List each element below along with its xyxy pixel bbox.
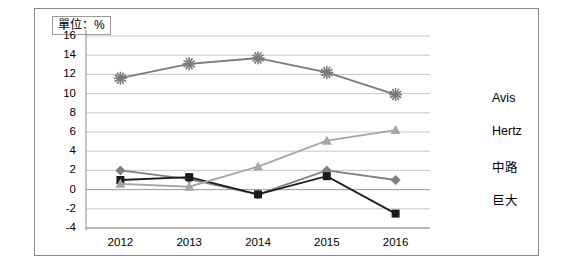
x-axis-tick: 2014 [235, 236, 281, 248]
y-axis-tick: 2 [52, 163, 76, 175]
chart-frame [34, 8, 539, 256]
legend-label: 中路 [492, 157, 518, 176]
legend-marker-diamond-icon [450, 92, 484, 93]
legend-marker-square-icon [450, 125, 484, 126]
y-axis-tick: 16 [52, 29, 76, 41]
y-axis-tick: -2 [52, 202, 76, 214]
y-axis-tick: 4 [52, 144, 76, 156]
legend-label: 巨大 [492, 190, 518, 209]
legend-label: Avis [492, 91, 515, 105]
x-axis-tick: 2015 [304, 236, 350, 248]
y-axis-tick: 8 [52, 106, 76, 118]
legend-marker-star-icon [450, 191, 484, 192]
y-axis-tick: 14 [52, 48, 76, 60]
legend-label: Hertz [492, 124, 522, 138]
x-axis-tick: 2013 [166, 236, 212, 248]
y-axis-tick: 12 [52, 67, 76, 79]
x-axis-tick: 2016 [373, 236, 419, 248]
legend-marker-triangle-icon [450, 158, 484, 159]
y-axis-tick: -4 [52, 221, 76, 233]
y-axis-tick: 10 [52, 87, 76, 99]
y-axis-tick: 0 [52, 183, 76, 195]
x-axis-tick: 2012 [97, 236, 143, 248]
y-axis-tick: 6 [52, 125, 76, 137]
